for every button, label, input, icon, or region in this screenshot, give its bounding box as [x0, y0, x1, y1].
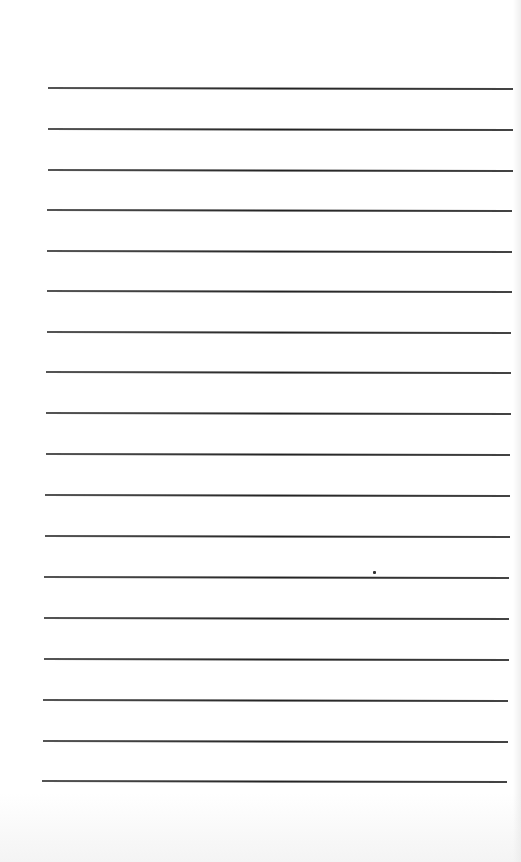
ruled-line	[43, 740, 508, 742]
ruled-line	[44, 576, 509, 578]
ruled-line	[46, 371, 511, 373]
ruled-line	[48, 87, 513, 89]
page-edge-shadow	[513, 0, 521, 862]
ruled-line	[45, 494, 510, 496]
lined-paper-page	[0, 0, 521, 862]
ruled-line	[42, 780, 507, 782]
ruled-line	[43, 699, 508, 701]
ruled-line	[47, 250, 512, 252]
ruled-line	[46, 412, 511, 414]
ink-dot	[373, 571, 376, 574]
ruled-line	[44, 658, 509, 660]
ruled-line	[47, 209, 512, 211]
ruled-line	[46, 453, 510, 455]
ruled-line	[48, 128, 513, 130]
ruled-line	[47, 290, 512, 292]
ruled-line	[45, 535, 510, 537]
ruled-line	[47, 331, 511, 333]
ruled-line	[48, 169, 513, 171]
ruled-line	[44, 617, 509, 619]
